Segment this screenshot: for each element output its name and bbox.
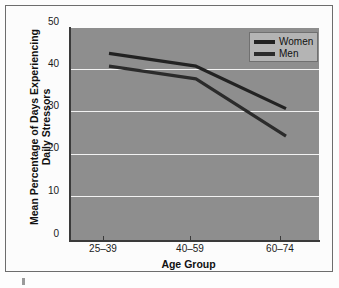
x-tick-mark-60-74 [280,236,281,241]
x-tick-label-40-59: 40–59 [160,243,220,254]
legend-swatch-women [254,40,275,44]
x-tick-label-60-74: 60–74 [250,243,310,254]
legend-swatch-men [254,52,275,56]
chart-legend: Women Men [249,32,318,62]
x-tick-mark-25-39 [103,236,104,241]
chart-figure: Women Men 50 40 30 20 10 0 25–39 40–59 6… [0,0,339,288]
x-tick-mark-40-59 [190,236,191,241]
legend-label-women: Women [279,36,313,48]
y-axis-title-line1: Mean Percentage of Days Experiencing [28,29,40,225]
x-axis-line [69,240,320,242]
legend-label-men: Men [279,48,298,60]
x-axis-title: Age Group [64,258,313,270]
page-artifact-mark [22,278,25,285]
x-tick-label-25-39: 25–39 [73,243,133,254]
series-line-men [109,66,286,136]
y-axis-title-line2: Daily Stressors [40,89,52,165]
y-axis-line [69,27,71,241]
y-axis-title: Mean Percentage of Days Experiencing Dai… [28,21,52,233]
